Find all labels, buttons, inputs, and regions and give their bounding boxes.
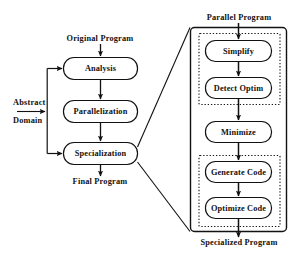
label-domain: Domain <box>13 116 42 125</box>
node-generate-code-shape[interactable] <box>206 162 272 183</box>
label-specialized-program: Specialized Program <box>200 238 277 247</box>
node-specialization-shape[interactable] <box>64 143 138 165</box>
label-final-program: Final Program <box>73 177 128 186</box>
node-simplify-shape[interactable] <box>206 41 272 62</box>
node-optimize-code-shape[interactable] <box>206 198 272 219</box>
node-minimize-shape[interactable] <box>206 122 272 143</box>
diagram-vector-layer <box>0 0 305 259</box>
label-parallel-program: Parallel Program <box>207 13 272 22</box>
node-analysis-shape[interactable] <box>64 58 138 80</box>
diagram-canvas: Original Program Final Program Abstract … <box>0 0 305 259</box>
node-detect-optim-shape[interactable] <box>206 78 272 99</box>
expansion-connector-top <box>138 28 191 148</box>
expansion-connector-bottom <box>138 162 191 232</box>
node-parallelization-shape[interactable] <box>64 101 138 123</box>
label-abstract: Abstract <box>13 98 45 107</box>
label-original-program: Original Program <box>67 34 134 43</box>
